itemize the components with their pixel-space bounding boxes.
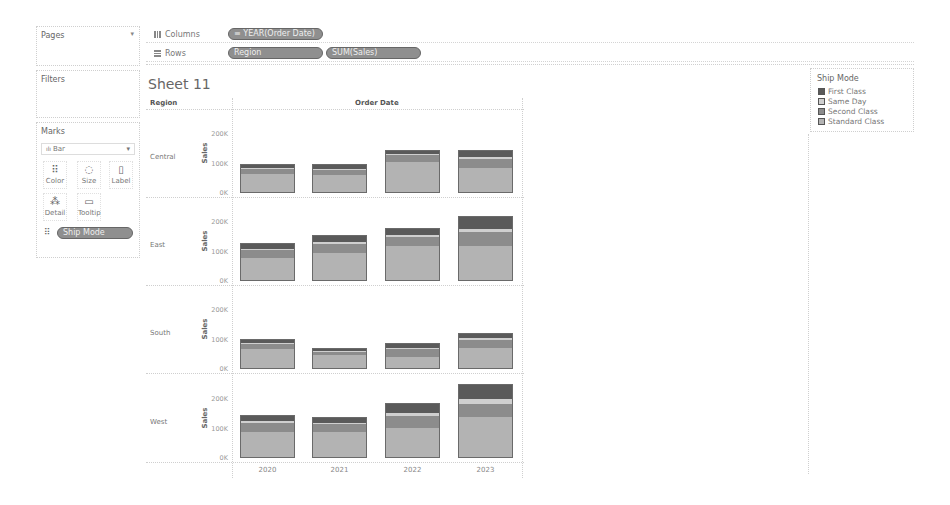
segment-standard-class — [459, 168, 512, 192]
segment-first-class — [459, 217, 512, 229]
segment-first-class — [386, 404, 439, 414]
pages-title: Pages — [41, 31, 65, 40]
columns-icon — [154, 31, 161, 38]
size-button[interactable]: ◌Size — [77, 161, 101, 189]
axis-tick: 200K — [196, 395, 228, 403]
segment-standard-class — [241, 432, 294, 457]
axis-tick: 0K — [196, 365, 228, 373]
swatch-icon — [818, 108, 825, 115]
color-button[interactable]: ⠿Color — [43, 161, 67, 189]
rows-icon — [154, 50, 161, 57]
ship-mode-pill[interactable]: Ship Mode — [57, 227, 133, 239]
legend-item-same-day[interactable]: Same Day — [818, 97, 866, 106]
segment-second-class — [313, 244, 366, 253]
bar-west-2023[interactable] — [458, 384, 513, 458]
segment-second-class — [459, 404, 512, 417]
filters-card[interactable]: Filters — [36, 70, 140, 118]
segment-standard-class — [386, 246, 439, 280]
region-column-header: Region — [150, 99, 177, 107]
year-order-date-pill[interactable]: ≡ YEAR(Order Date) — [228, 28, 323, 40]
bar-west-2020[interactable] — [240, 415, 295, 458]
pane-divider — [146, 285, 524, 286]
segment-second-class — [241, 423, 294, 432]
bar-central-2020[interactable] — [240, 164, 295, 194]
rows-shelf[interactable]: Rows Region SUM(Sales) — [146, 45, 914, 62]
mark-type-dropdown[interactable]: ılı Bar ▾ — [41, 143, 135, 155]
axis-tick: 200K — [196, 130, 228, 138]
segment-standard-class — [241, 258, 294, 280]
bar-east-2021[interactable] — [312, 235, 367, 281]
bar-east-2023[interactable] — [458, 216, 513, 281]
label-button[interactable]: ▯Label — [109, 161, 133, 189]
legend-title: Ship Mode — [817, 74, 859, 83]
region-label: East — [150, 241, 165, 249]
bar-central-2022[interactable] — [385, 150, 440, 193]
pane-divider — [146, 373, 524, 374]
bar-east-2020[interactable] — [240, 243, 295, 281]
detail-icon: ⁂ — [44, 196, 66, 209]
segment-standard-class — [313, 175, 366, 192]
bar-west-2022[interactable] — [385, 403, 440, 458]
region-pill[interactable]: Region — [228, 47, 323, 59]
pane-divider — [146, 197, 524, 198]
tooltip-icon: ▭ — [78, 196, 100, 209]
shelf-divider — [146, 64, 914, 65]
segment-standard-class — [241, 174, 294, 192]
mark-type-value: Bar — [53, 145, 65, 153]
sum-sales-pill[interactable]: SUM(Sales) — [326, 47, 421, 59]
bar-central-2021[interactable] — [312, 164, 367, 193]
segment-standard-class — [313, 432, 366, 457]
axis-tick: 100K — [196, 336, 228, 344]
bar-chart-icon: ılı — [46, 145, 53, 152]
tooltip-button[interactable]: ▭Tooltip — [77, 193, 101, 221]
segment-second-class — [459, 340, 512, 348]
pages-dropdown-icon[interactable]: ▾ — [130, 30, 134, 38]
bar-central-2023[interactable] — [458, 150, 513, 193]
segment-second-class — [386, 155, 439, 162]
size-icon: ◌ — [78, 164, 100, 177]
segment-second-class — [386, 237, 439, 246]
marks-title: Marks — [41, 127, 65, 136]
columns-label: Columns — [165, 30, 200, 39]
segment-standard-class — [313, 355, 366, 368]
detail-button[interactable]: ⁂Detail — [43, 193, 67, 221]
bar-east-2022[interactable] — [385, 228, 440, 281]
right-panel-border — [808, 134, 809, 474]
year-label-2021: 2021 — [312, 466, 367, 474]
rows-label: Rows — [165, 49, 186, 58]
legend-item-standard-class[interactable]: Standard Class — [818, 117, 884, 126]
segment-standard-class — [386, 428, 439, 457]
legend-item-second-class[interactable]: Second Class — [818, 107, 878, 116]
swatch-icon — [818, 98, 825, 105]
segment-second-class — [459, 232, 512, 246]
right-divider — [522, 98, 523, 478]
segment-standard-class — [459, 246, 512, 280]
axis-tick: 0K — [196, 454, 228, 462]
bar-south-2022[interactable] — [385, 343, 440, 369]
axis-tick: 200K — [196, 218, 228, 226]
order-date-header: Order Date — [355, 99, 399, 107]
filters-title: Filters — [41, 75, 65, 84]
bar-south-2020[interactable] — [240, 339, 295, 369]
bar-west-2021[interactable] — [312, 417, 367, 458]
swatch-icon — [818, 118, 825, 125]
legend-item-first-class[interactable]: First Class — [818, 87, 866, 96]
year-label-2020: 2020 — [240, 466, 295, 474]
year-label-2022: 2022 — [385, 466, 440, 474]
bar-south-2023[interactable] — [458, 333, 513, 369]
segment-standard-class — [241, 349, 294, 368]
segment-second-class — [313, 424, 366, 432]
color-icon: ⠿ — [44, 164, 66, 177]
segment-standard-class — [386, 162, 439, 192]
region-label: West — [150, 418, 167, 426]
pages-card[interactable]: Pages ▾ — [36, 26, 140, 66]
chevron-down-icon: ▾ — [126, 144, 130, 154]
axis-divider — [232, 98, 233, 478]
axis-tick: 0K — [196, 277, 228, 285]
bar-south-2021[interactable] — [312, 348, 367, 369]
columns-shelf[interactable]: Columns ≡ YEAR(Order Date) — [146, 26, 914, 43]
segment-second-class — [459, 159, 512, 168]
axis-tick: 0K — [196, 189, 228, 197]
region-label: Central — [150, 153, 176, 161]
year-label-2023: 2023 — [458, 466, 513, 474]
